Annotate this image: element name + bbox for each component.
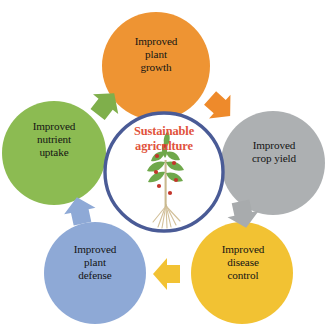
node-circle-plant-defense[interactable] — [44, 222, 146, 324]
node-circle-plant-growth[interactable] — [102, 12, 210, 120]
sustainable-agriculture-cycle-diagram: Improved plant growth Improved crop yiel… — [0, 0, 326, 331]
node-circle-nutrient-uptake[interactable] — [2, 101, 106, 205]
node-circle-crop-yield[interactable] — [221, 111, 325, 215]
arrow-plant-growth-to-crop-yield — [199, 86, 240, 128]
cycle-diagram-canvas — [0, 0, 326, 331]
node-circle-disease-control[interactable] — [191, 222, 293, 324]
arrow-disease-control-to-plant-defense — [153, 258, 180, 290]
